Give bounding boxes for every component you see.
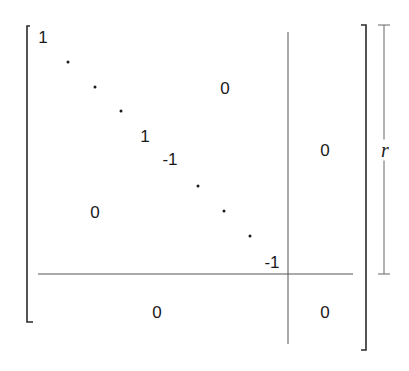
ellipsis-dot: [197, 185, 200, 188]
ellipsis-dot: [67, 61, 70, 64]
dimension-label-r: r: [381, 140, 389, 161]
matrix-brackets: [0, 0, 409, 371]
ellipsis-dot: [249, 235, 252, 238]
diagonal-entry-last-one: 1: [140, 128, 149, 145]
bottom-left-block-zero: 0: [152, 304, 161, 321]
diagonal-entry-first-minus-one: -1: [162, 151, 177, 168]
bottom-right-block-zero: 0: [320, 304, 329, 321]
diagonal-entry-last-minus-one: -1: [264, 254, 279, 271]
right-block-zero: 0: [320, 142, 329, 159]
upper-right-zero: 0: [220, 80, 229, 97]
diagonal-entry-first-one: 1: [38, 29, 47, 46]
ellipsis-dot: [94, 86, 97, 89]
ellipsis-dot: [120, 110, 123, 113]
ellipsis-dot: [223, 210, 226, 213]
lower-left-zero: 0: [90, 204, 99, 221]
